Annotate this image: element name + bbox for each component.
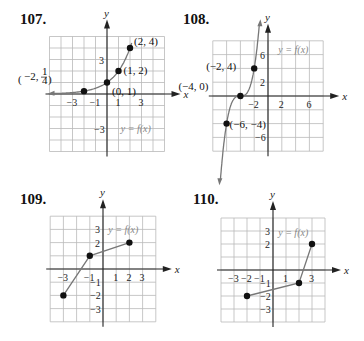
- point-label: (1, 2): [124, 64, 148, 77]
- x-axis-arrow-icon: [163, 266, 172, 272]
- y-tick-label: 3: [95, 224, 100, 235]
- point-label: (2, 4): [134, 35, 158, 48]
- x-tick-label: −1: [90, 97, 101, 108]
- data-point: [251, 65, 257, 71]
- x-tick-label: 3: [309, 273, 314, 284]
- graph-107: 107. xy−3−1133−3(−2,14)(0, 1)(1, 2)(2, 4…: [0, 0, 182, 170]
- point-label: (−2, 4): [206, 60, 236, 73]
- y-axis-label: y: [264, 11, 270, 23]
- data-point: [127, 45, 133, 51]
- point-label: ): [48, 73, 52, 86]
- x-axis-arrow-icon: [330, 93, 339, 99]
- graph-107-plot: xy−3−1133−3(−2,14)(0, 1)(1, 2)(2, 4)y = …: [0, 0, 182, 170]
- graph-109-plot: xy−3−112332−1−2−3y = f(x): [0, 170, 182, 341]
- y-tick-label: −6: [255, 132, 266, 143]
- x-tick-label: 3: [140, 272, 145, 283]
- x-tick-label: 1: [113, 272, 118, 283]
- y-tick-label: 3: [99, 55, 104, 66]
- data-point: [81, 88, 87, 94]
- point-label: −2,: [24, 70, 39, 82]
- y-axis-label: y: [103, 7, 109, 19]
- x-tick-label: 1: [116, 97, 121, 108]
- y-tick-label: −3: [94, 124, 105, 135]
- x-axis-label: x: [341, 90, 347, 102]
- function-label: y = f(x): [277, 44, 309, 56]
- y-tick-label: 2: [260, 77, 265, 88]
- x-tick-label: 2: [126, 272, 131, 283]
- data-point: [60, 292, 66, 298]
- curve-arrow-icon: [48, 91, 55, 96]
- y-axis-arrow-icon: [270, 201, 276, 210]
- x-tick-label: 2: [279, 99, 284, 110]
- data-point: [115, 68, 121, 74]
- x-tick-label: 3: [139, 97, 144, 108]
- y-tick-label: 6: [260, 50, 265, 61]
- data-point: [87, 253, 93, 259]
- data-point: [244, 293, 250, 299]
- data-point: [126, 239, 132, 245]
- x-axis-arrow-icon: [332, 267, 341, 273]
- point-label: (−6, −4): [230, 118, 267, 131]
- y-axis-arrow-icon: [100, 199, 106, 208]
- data-point: [309, 241, 315, 247]
- graph-110-plot: xy−3−2−11332−1−2−3y = f(x): [182, 170, 364, 341]
- point-label: (−4, 0): [178, 80, 208, 93]
- y-tick-label: −1: [260, 278, 271, 289]
- y-tick-label: 3: [265, 226, 270, 237]
- graph-108-plot: xy−22662−6(−2, 4)(−4, 0)(−6, −4)y = f(x): [182, 0, 364, 170]
- y-tick-label: −1: [90, 277, 101, 288]
- y-tick-label: 2: [95, 238, 100, 249]
- data-point: [104, 79, 110, 85]
- point-label: (: [18, 73, 22, 86]
- curve-arrow-icon: [257, 19, 262, 26]
- point-label: (0, 1): [112, 85, 136, 98]
- x-tick-label: 1: [283, 273, 288, 284]
- x-axis-label: x: [343, 264, 349, 276]
- y-tick-label: −2: [90, 290, 101, 301]
- y-axis-label: y: [99, 186, 105, 198]
- y-tick-label: −3: [90, 304, 101, 315]
- x-axis-label: x: [174, 263, 180, 275]
- x-tick-label: −2: [241, 273, 252, 284]
- function-label: y = f(x): [120, 123, 152, 135]
- data-point: [296, 280, 302, 286]
- graph-108: 108. xy−22662−6(−2, 4)(−4, 0)(−6, −4)y =…: [182, 0, 364, 170]
- x-tick-label: 6: [306, 99, 311, 110]
- x-tick-label: −3: [67, 97, 78, 108]
- y-axis-arrow-icon: [104, 20, 110, 29]
- function-label: y = f(x): [107, 224, 139, 236]
- x-tick-label: −3: [228, 273, 239, 284]
- y-tick-label: 2: [265, 239, 270, 250]
- data-point: [237, 93, 243, 99]
- x-tick-label: −3: [57, 272, 68, 283]
- y-axis-arrow-icon: [265, 24, 271, 33]
- y-axis-label: y: [269, 188, 275, 200]
- graph-109: 109. xy−3−112332−1−2−3y = f(x): [0, 170, 182, 341]
- function-label: y = f(x): [277, 227, 309, 239]
- graph-110: 110. xy−3−2−11332−1−2−3y = f(x): [182, 170, 364, 341]
- y-tick-label: −3: [260, 304, 271, 315]
- x-tick-label: −2: [248, 99, 259, 110]
